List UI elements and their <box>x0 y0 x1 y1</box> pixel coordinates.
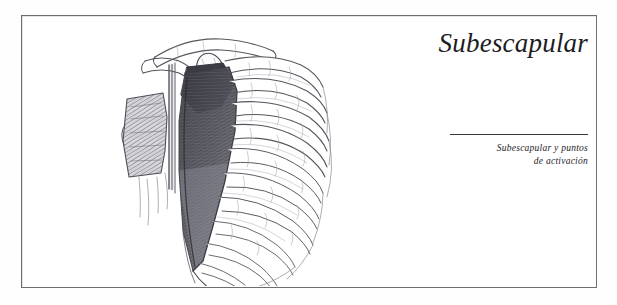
content-frame: Subescapular Subescapular y puntos de ac… <box>21 15 597 288</box>
caption-block: Subescapular y puntos de activación <box>450 134 588 168</box>
anatomical-illustration <box>117 21 337 286</box>
caption-line-1: Subescapular y puntos <box>450 142 588 155</box>
caption-line-2: de activación <box>450 155 588 168</box>
ribs-lower <box>199 221 295 286</box>
fascia-strands <box>139 173 168 225</box>
ribs-middle <box>218 148 323 254</box>
caption-text: Subescapular y puntos de activación <box>450 142 588 168</box>
scapula-blade <box>167 56 257 286</box>
vertebral-block <box>117 81 177 191</box>
page-title: Subescapular <box>258 28 588 58</box>
paravertebral-strips <box>169 63 175 193</box>
page-root: Subescapular Subescapular y puntos de ac… <box>0 0 617 305</box>
ribcage-scapula-drawing <box>117 21 337 286</box>
caption-divider <box>450 134 588 135</box>
